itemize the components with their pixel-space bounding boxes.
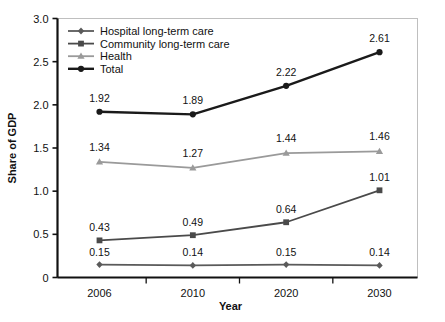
point-value-label: 0.15 [276, 246, 297, 258]
y-tick-label: 2.5 [33, 56, 48, 68]
x-tick-label: 2006 [87, 287, 111, 299]
point-value-label: 0.15 [89, 246, 110, 258]
legend-item[interactable]: Community long-term care [68, 38, 230, 50]
x-axis: 2006201020202030 [87, 278, 391, 299]
data-point [96, 109, 102, 115]
y-tick-label: 1.0 [33, 185, 48, 197]
data-point [283, 219, 289, 225]
series-line [100, 52, 380, 114]
legend-item[interactable]: Hospital long-term care [68, 25, 214, 37]
legend: Hospital long-term careCommunity long-te… [68, 25, 230, 75]
data-point [376, 49, 382, 55]
point-value-label: 0.49 [183, 216, 204, 228]
data-point [190, 232, 196, 238]
point-value-label: 1.46 [369, 130, 390, 142]
point-value-label: 0.14 [369, 246, 390, 258]
series-2: 0.430.490.641.01 [89, 171, 390, 243]
line-chart: 00.51.01.52.02.53.02006201020202030YearS… [0, 0, 445, 322]
point-value-label: 0.14 [183, 246, 204, 258]
data-point [376, 262, 382, 269]
series-line [100, 190, 380, 240]
y-axis: 00.51.01.52.02.53.0 [33, 13, 57, 284]
point-value-label: 1.01 [369, 171, 390, 183]
point-value-label: 0.43 [89, 221, 110, 233]
point-value-label: 0.64 [276, 203, 297, 215]
legend-item-label: Hospital long-term care [100, 25, 214, 37]
legend-item-label: Community long-term care [100, 38, 230, 50]
data-point [283, 83, 289, 89]
data-point [78, 41, 84, 47]
series-line [100, 151, 380, 167]
x-tick-label: 2020 [274, 287, 298, 299]
data-point [283, 261, 289, 268]
chart-canvas: 00.51.01.52.02.53.02006201020202030YearS… [0, 0, 445, 322]
series-1: 0.150.140.150.14 [89, 246, 390, 269]
point-value-label: 1.92 [89, 92, 110, 104]
series-line [100, 265, 380, 266]
point-value-label: 1.34 [89, 141, 110, 153]
y-tick-label: 2.0 [33, 99, 48, 111]
data-point [377, 187, 383, 193]
data-point [97, 237, 103, 243]
point-value-label: 2.61 [369, 32, 390, 44]
legend-item-label: Health [100, 50, 132, 62]
y-tick-label: 1.5 [33, 142, 48, 154]
data-point [190, 262, 196, 269]
data-point [78, 28, 84, 35]
series-3: 1.341.271.441.46 [89, 130, 390, 170]
x-axis-title: Year [219, 300, 243, 312]
legend-item-label: Total [100, 63, 123, 75]
x-tick-label: 2010 [181, 287, 205, 299]
y-axis-title: Share of GDP [6, 113, 18, 184]
y-tick-label: 0.5 [33, 228, 48, 240]
point-value-label: 2.22 [276, 66, 297, 78]
legend-item[interactable]: Total [68, 63, 123, 75]
point-value-label: 1.27 [183, 147, 204, 159]
legend-item[interactable]: Health [68, 50, 132, 62]
point-value-label: 1.44 [276, 132, 297, 144]
data-point [96, 261, 102, 268]
y-tick-label: 3.0 [33, 13, 48, 25]
data-point [190, 111, 196, 117]
y-tick-label: 0 [42, 272, 48, 284]
x-tick-label: 2030 [367, 287, 391, 299]
data-point [78, 66, 84, 72]
point-value-label: 1.89 [183, 94, 204, 106]
